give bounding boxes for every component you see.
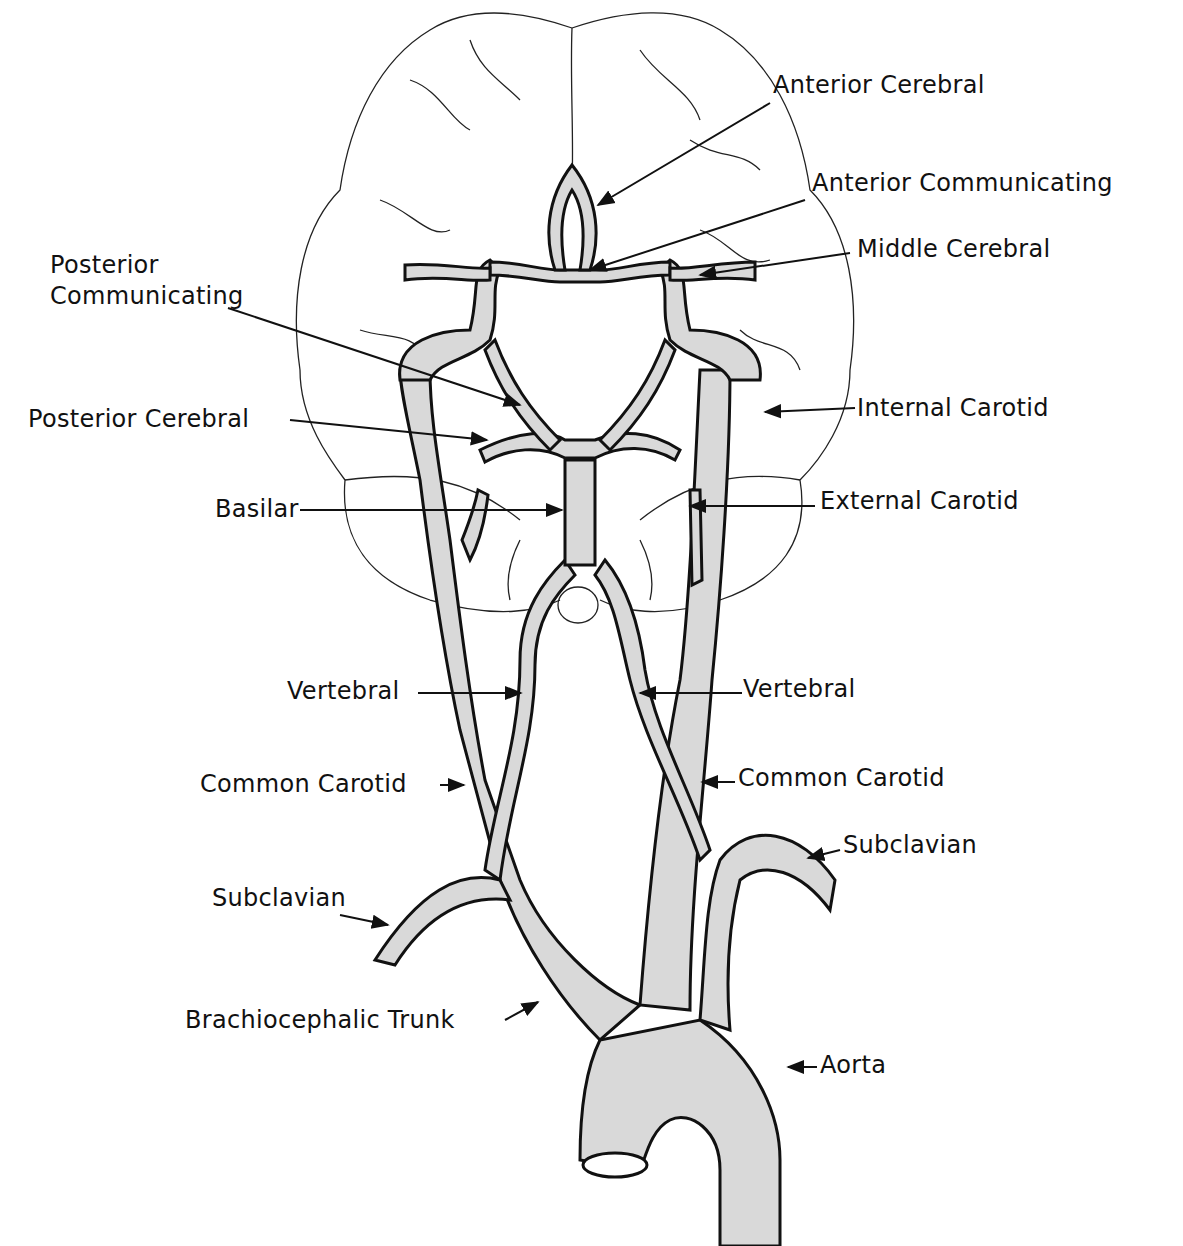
label-aorta: Aorta	[820, 1052, 886, 1078]
label-middle-cerebral: Middle Cerebral	[857, 236, 1051, 262]
external-carotid-left	[690, 490, 702, 585]
label-vertebral-right: Vertebral	[287, 678, 400, 704]
aorta	[580, 1020, 780, 1246]
label-vertebral-left: Vertebral	[743, 676, 856, 702]
label-subclavian-left: Subclavian	[843, 832, 977, 858]
label-posterior-communicating-line2: Communicating	[50, 283, 244, 309]
posterior-cerebral-vessels	[480, 433, 680, 462]
label-anterior-cerebral: Anterior Cerebral	[773, 72, 985, 98]
label-common-carotid-right: Common Carotid	[200, 771, 407, 797]
subclavian-right-vessel	[375, 878, 510, 965]
anterior-cerebral	[549, 165, 596, 270]
label-subclavian-right: Subclavian	[212, 885, 346, 911]
external-carotid-right	[462, 490, 488, 560]
left-subclavian	[700, 835, 835, 1030]
label-external-carotid: External Carotid	[820, 488, 1019, 514]
label-brachiocephalic-trunk: Brachiocephalic Trunk	[185, 1007, 455, 1033]
middle-cerebral-left	[670, 262, 755, 280]
label-basilar: Basilar	[215, 496, 299, 522]
arteries	[375, 165, 835, 1246]
label-common-carotid-left: Common Carotid	[738, 765, 945, 791]
label-internal-carotid: Internal Carotid	[857, 395, 1049, 421]
label-posterior-cerebral: Posterior Cerebral	[28, 406, 249, 432]
basilar	[565, 460, 595, 565]
vertebral-right	[485, 560, 575, 880]
middle-cerebral-right	[405, 264, 490, 280]
label-anterior-communicating: Anterior Communicating	[812, 170, 1113, 196]
label-posterior-communicating-line1: Posterior	[50, 252, 159, 278]
